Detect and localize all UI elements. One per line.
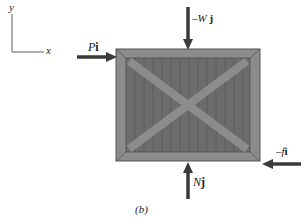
y-axis-label: y [9, 1, 14, 13]
free-body-diagram [0, 0, 303, 217]
figure-caption: (b) [135, 203, 148, 215]
label-applied-force: Pi [88, 40, 99, 55]
label-weight: –W j [192, 12, 213, 24]
label-friction: –fi [276, 145, 288, 157]
label-normal: Nj [193, 175, 205, 190]
force-arrow-friction [262, 159, 301, 169]
coordinate-axes [12, 14, 44, 52]
force-arrow-normal [183, 162, 193, 199]
x-axis-label: x [46, 44, 51, 56]
crate [116, 49, 260, 161]
